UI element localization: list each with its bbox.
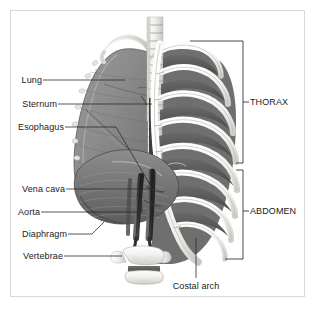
anatomical-figure: Lung Sternum Esophagus Vena cava Aorta D… bbox=[0, 0, 317, 313]
label-costal-arch: Costal arch bbox=[160, 281, 232, 291]
label-aorta: Aorta bbox=[0, 207, 40, 217]
label-sternum: Sternum bbox=[0, 99, 57, 109]
anatomy-illustration bbox=[0, 0, 317, 313]
label-vertebrae: Vertebrae bbox=[0, 251, 63, 261]
label-diaphragm: Diaphragm bbox=[0, 229, 67, 239]
label-vena-cava: Vena cava bbox=[0, 184, 65, 194]
label-lung: Lung bbox=[0, 75, 42, 85]
lumbar-vertebra-illustration bbox=[111, 246, 171, 284]
leader-line-diaphragm2 bbox=[92, 222, 104, 234]
label-esophagus: Esophagus bbox=[0, 122, 64, 132]
label-abdomen: ABDOMEN bbox=[250, 206, 310, 216]
label-thorax: THORAX bbox=[250, 97, 305, 107]
